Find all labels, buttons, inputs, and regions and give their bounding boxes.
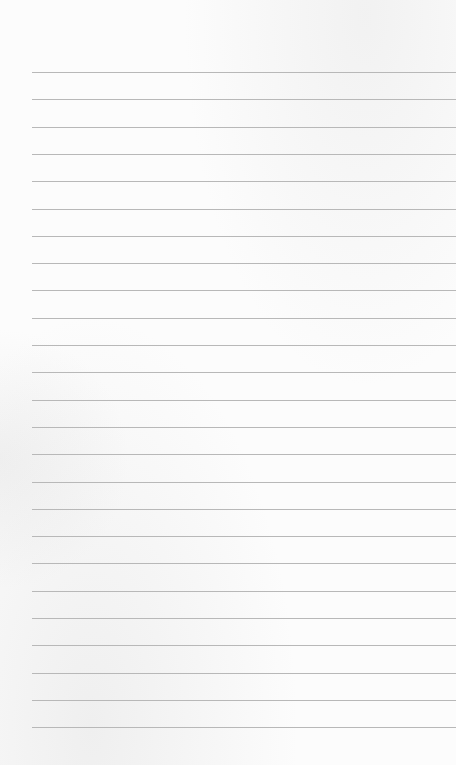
- ruled-line: [32, 99, 456, 100]
- ruled-line: [32, 290, 456, 291]
- ruled-line: [32, 482, 456, 483]
- ruled-line: [32, 700, 456, 701]
- ruled-line: [32, 372, 456, 373]
- ruled-line: [32, 181, 456, 182]
- ruled-line: [32, 618, 456, 619]
- ruled-line: [32, 563, 456, 564]
- lined-paper: [0, 0, 456, 765]
- ruled-line: [32, 591, 456, 592]
- ruled-line: [32, 127, 456, 128]
- ruled-line: [32, 236, 456, 237]
- ruled-line: [32, 536, 456, 537]
- ruled-line: [32, 154, 456, 155]
- ruled-line: [32, 318, 456, 319]
- ruled-line: [32, 645, 456, 646]
- ruled-line: [32, 345, 456, 346]
- ruled-line: [32, 454, 456, 455]
- ruled-line: [32, 209, 456, 210]
- ruled-line: [32, 263, 456, 264]
- ruled-line: [32, 72, 456, 73]
- ruled-line: [32, 673, 456, 674]
- ruled-line: [32, 427, 456, 428]
- ruled-line: [32, 509, 456, 510]
- ruled-line: [32, 400, 456, 401]
- ruled-line: [32, 727, 456, 728]
